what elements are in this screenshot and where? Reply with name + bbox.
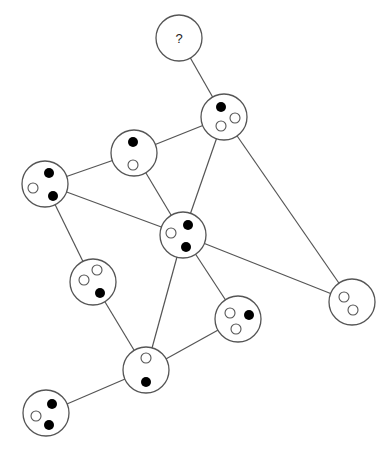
filled-dot-icon xyxy=(244,310,254,320)
empty-dot-icon xyxy=(79,275,89,285)
empty-dot-icon xyxy=(216,121,226,131)
filled-dot-icon xyxy=(44,420,54,430)
node-label: ? xyxy=(175,31,182,46)
empty-dot-icon xyxy=(31,411,41,421)
empty-dot-icon xyxy=(92,265,102,275)
filled-dot-icon xyxy=(128,137,138,147)
empty-dot-icon xyxy=(339,292,349,302)
graph-diagram: ? xyxy=(0,0,388,454)
node-h xyxy=(123,347,169,393)
filled-dot-icon xyxy=(95,288,105,298)
node-e xyxy=(70,259,116,305)
empty-dot-icon xyxy=(231,324,241,334)
filled-dot-icon xyxy=(48,191,58,201)
node-b xyxy=(111,130,157,176)
filled-dot-icon xyxy=(181,242,191,252)
node-circle xyxy=(329,279,375,325)
empty-dot-icon xyxy=(28,183,38,193)
graph-svg xyxy=(0,0,388,454)
filled-dot-icon xyxy=(183,220,193,230)
node-d xyxy=(160,212,206,258)
filled-dot-icon xyxy=(47,399,57,409)
node-circle xyxy=(22,161,68,207)
node-circle xyxy=(70,259,116,305)
filled-dot-icon xyxy=(141,377,151,387)
node-f xyxy=(215,296,261,342)
node-circle xyxy=(215,296,261,342)
node-g xyxy=(329,279,375,325)
empty-dot-icon xyxy=(348,305,358,315)
empty-dot-icon xyxy=(128,160,138,170)
node-a xyxy=(201,94,247,140)
empty-dot-icon xyxy=(230,113,240,123)
empty-dot-icon xyxy=(166,228,176,238)
nodes-layer xyxy=(22,15,375,436)
node-i xyxy=(23,390,69,436)
filled-dot-icon xyxy=(216,102,226,112)
empty-dot-icon xyxy=(141,353,151,363)
node-c xyxy=(22,161,68,207)
empty-dot-icon xyxy=(225,308,235,318)
edge-a-g xyxy=(224,117,352,302)
node-circle xyxy=(23,390,69,436)
edge-d-g xyxy=(183,235,352,302)
filled-dot-icon xyxy=(44,168,54,178)
